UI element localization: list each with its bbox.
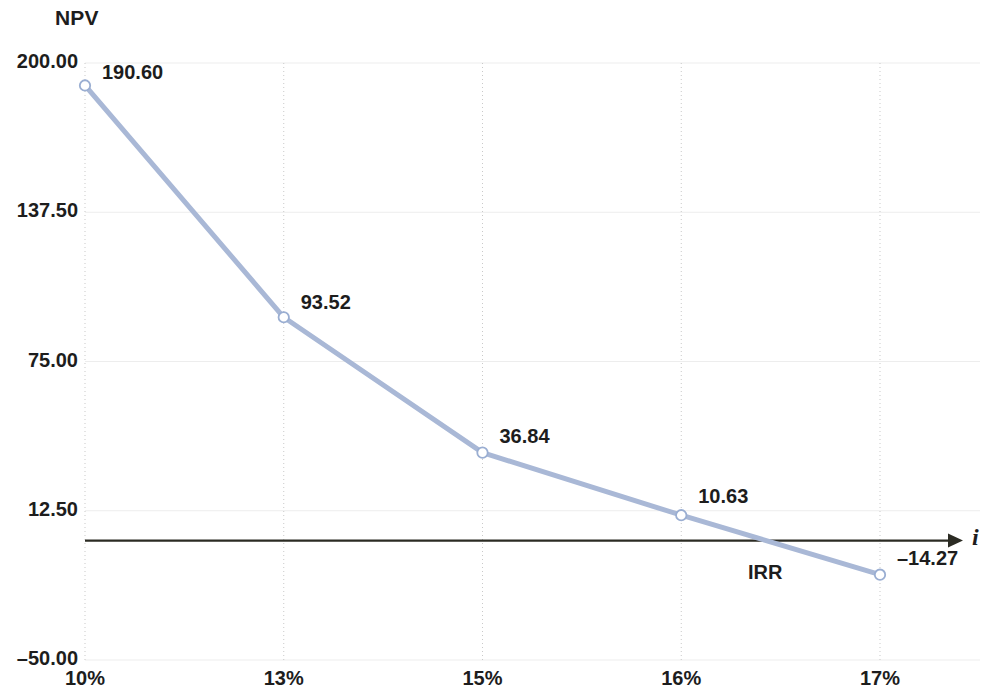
x-axis-tick-label: 13% [244,667,324,690]
x-axis-tick-label: 16% [641,667,721,690]
data-point-value-label: 10.63 [698,485,748,508]
plot-canvas [0,0,1001,694]
irr-annotation-label: IRR [748,561,782,584]
x-axis-tick-label: 15% [443,667,523,690]
data-point-value-label: 190.60 [102,61,163,84]
data-point-marker [875,569,885,579]
x-axis-tick-label: 17% [840,667,920,690]
data-point-value-label: –14.27 [897,547,958,570]
x-axis-arrowhead [948,534,963,548]
y-axis-tick-label: 75.00 [0,349,78,372]
data-point-marker [279,312,289,322]
data-point-value-label: 93.52 [301,291,351,314]
x-axis-tick-label: 10% [45,667,125,690]
data-point-marker [80,80,90,90]
y-axis-tick-label: 137.50 [0,199,78,222]
data-point-marker [676,510,686,520]
y-axis-tick-label: 200.00 [0,50,78,73]
data-point-value-label: 36.84 [500,425,550,448]
y-axis-tick-label: 12.50 [0,498,78,521]
npv-irr-chart: NPV i 200.00137.5075.0012.50–50.00 10%13… [0,0,1001,694]
zero-axis-line [85,534,963,548]
data-point-marker [477,447,487,457]
npv-series-line [85,85,880,574]
horizontal-gridlines [85,63,980,660]
